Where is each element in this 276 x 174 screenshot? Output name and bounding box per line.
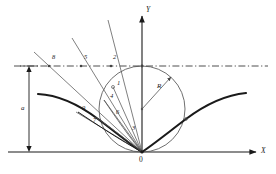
origin-dot (140, 150, 143, 153)
circle-center-dot (141, 108, 143, 110)
point-marker-2 (110, 65, 113, 68)
x-axis-label: X (261, 147, 266, 155)
point-label-6: 6 (116, 109, 119, 116)
dimension-label-a: a (21, 105, 25, 112)
dimension-arrow-bottom (26, 146, 31, 152)
point-label-3: 3 (132, 125, 135, 132)
radius-label-R: R (157, 83, 161, 90)
point-label-9: 9 (82, 105, 85, 112)
cycloid-right-branch (142, 93, 246, 152)
dimension-arrow-top (26, 66, 31, 72)
point-label-7: 7 (93, 117, 96, 124)
point-marker-apex (141, 65, 144, 68)
point-marker-8 (48, 65, 51, 68)
point-label-5: 5 (84, 54, 87, 61)
ray-to-point-5 (72, 38, 142, 152)
y-axis-label: Y (146, 6, 150, 14)
ray-to-point-2 (108, 20, 142, 152)
point-label-8: 8 (52, 54, 55, 61)
aux-curve-9-to-origin (78, 112, 142, 152)
point-label-4: 4 (110, 93, 113, 100)
point-label-1: 1 (117, 80, 120, 87)
ray-to-point-8 (34, 52, 142, 152)
diagram-svg (0, 0, 276, 174)
point-label-2: 2 (113, 54, 116, 61)
figure-canvas: Y X 0 a R 1 2 3 4 5 6 7 8 9 (0, 0, 276, 174)
point-marker-5 (80, 65, 83, 68)
origin-label: 0 (139, 156, 143, 164)
